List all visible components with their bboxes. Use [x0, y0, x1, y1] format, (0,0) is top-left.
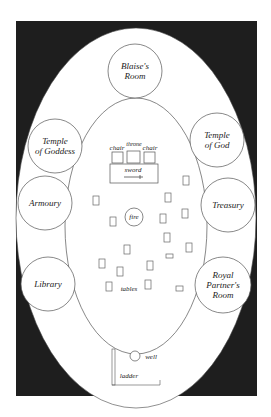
table [147, 261, 153, 270]
table [186, 243, 192, 252]
table [164, 233, 170, 242]
well [130, 351, 140, 361]
table [93, 196, 99, 205]
table [124, 245, 130, 254]
label-line: Blaise's [108, 61, 162, 71]
label-line: Temple [190, 130, 244, 140]
table [110, 217, 116, 226]
label-line: of Goddess [28, 146, 82, 156]
label-fire: fire [122, 212, 146, 222]
table [165, 193, 171, 202]
label-armoury: Armoury [18, 198, 72, 208]
label-temple-of-god: Temple of God [190, 130, 244, 150]
label-line: Room [196, 290, 250, 300]
table [182, 209, 188, 218]
label-sword: sword [118, 165, 148, 175]
chair-left [112, 152, 123, 163]
label-tables: tables [114, 284, 144, 294]
table [160, 214, 166, 223]
label-line: Library [21, 279, 75, 289]
label-library: Library [21, 279, 75, 289]
label-royal-partners-room: Royal Partner's Room [196, 270, 250, 300]
label-ladder: ladder [114, 371, 144, 381]
label-temple-of-goddess: Temple of Goddess [28, 136, 82, 156]
label-line: Room [108, 71, 162, 81]
table [145, 280, 151, 289]
label-line: Armoury [18, 198, 72, 208]
label-line: Treasury [201, 200, 255, 210]
table [99, 259, 105, 268]
table [166, 254, 173, 258]
table [176, 286, 183, 291]
table [117, 267, 123, 276]
label-line: Royal [196, 270, 250, 280]
label-treasury: Treasury [201, 200, 255, 210]
label-chair-right: chair [139, 143, 161, 153]
label-line: Partner's [196, 280, 250, 290]
table [183, 176, 189, 185]
table [106, 282, 112, 291]
label-line: of God [190, 140, 244, 150]
label-line: Temple [28, 136, 82, 146]
label-well: well [140, 352, 162, 362]
label-blaises-room: Blaise's Room [108, 61, 162, 81]
chair-right [144, 152, 155, 163]
